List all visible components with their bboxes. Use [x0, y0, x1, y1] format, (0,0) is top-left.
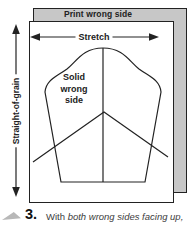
solid-wrong-side-label: Solid wrong side [61, 72, 88, 107]
stretch-label: Stretch [75, 33, 112, 42]
solid-wrong-side-label-line3: side [61, 95, 88, 107]
solid-wrong-side-label-line2: wrong [61, 83, 88, 95]
step-caption-italic: both wrong sides facing up, [68, 211, 184, 222]
step-caption-text: With both wrong sides facing up, [46, 211, 183, 222]
sleeve-pattern-outline [45, 48, 161, 182]
straight-of-grain-label: Straight-of-grain [12, 75, 21, 148]
step-caption-regular: With [46, 211, 65, 222]
solid-wrong-side-label-line1: Solid [61, 72, 88, 84]
step-number: 3. [25, 206, 37, 222]
sewing-instruction-figure: Print wrong side Stretch Straight-of-gra… [0, 0, 195, 230]
